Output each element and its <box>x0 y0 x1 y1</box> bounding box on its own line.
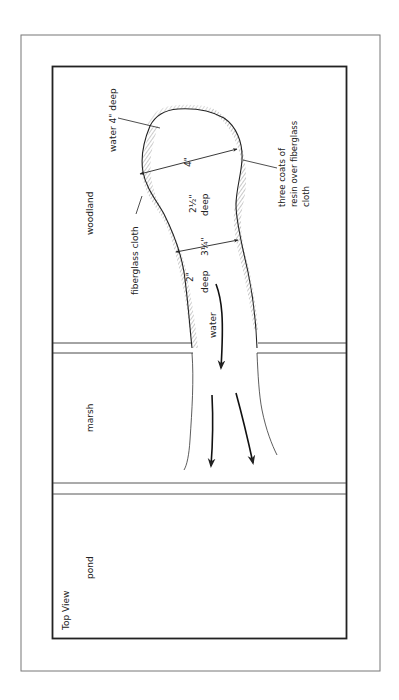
label-top-view: Top View <box>61 591 71 631</box>
label-resin-line1: three coats of <box>277 147 287 207</box>
flow-arrow-left <box>211 395 213 466</box>
label-width-head: 4" <box>183 157 193 167</box>
outflow-right-edge <box>257 353 277 455</box>
label-fiberglass-cloth: fiberglass cloth <box>130 226 140 295</box>
leader-fiberglass-cloth <box>136 196 142 214</box>
label-depth-neck-value: 2" <box>185 272 195 282</box>
label-water-depth-head: water 4" deep <box>108 88 118 152</box>
flow-arrow-right <box>236 393 253 463</box>
outflow-left-edge <box>184 353 193 470</box>
boundary-woodland-marsh <box>53 343 346 353</box>
label-pond: pond <box>85 556 95 579</box>
inner-frame <box>53 67 347 639</box>
label-resin-line3: cloth <box>301 186 311 207</box>
label-depth-middle-value: 2½" <box>188 194 198 213</box>
label-woodland: woodland <box>85 191 95 235</box>
label-width-neck: 3¼" <box>200 237 210 256</box>
boundary-marsh-pond <box>53 483 346 494</box>
label-marsh: marsh <box>85 404 95 432</box>
label-resin-line2: resin over fiberglass <box>289 120 299 207</box>
label-depth-neck-unit: deep <box>200 270 210 293</box>
leader-resin-coats <box>243 160 277 168</box>
stream-channel-diagram: water 4" deep woodland fiberglass cloth … <box>0 0 399 700</box>
label-depth-middle-unit: deep <box>200 193 210 216</box>
diagram-page: water 4" deep woodland fiberglass cloth … <box>0 0 399 700</box>
label-flow-water: water <box>208 312 218 338</box>
